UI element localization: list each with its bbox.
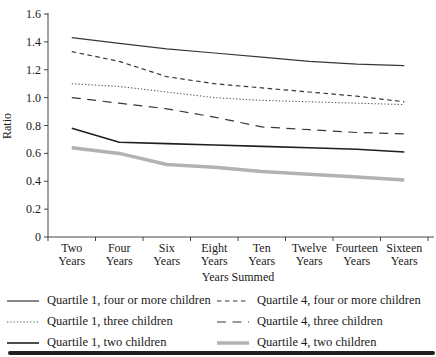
x-category-label: TenYears (248, 241, 275, 268)
x-category-label: SixYears (153, 241, 180, 268)
legend-line-sample-solid-thin (6, 296, 40, 306)
y-tick-label: 0.4 (26, 174, 41, 188)
axes: 00.20.40.60.81.01.21.41.6TwoYearsFourYea… (26, 7, 434, 268)
y-tick-label: 1.6 (26, 7, 41, 21)
series-lines (72, 38, 405, 180)
chart-figure: 00.20.40.60.81.01.21.41.6TwoYearsFourYea… (0, 0, 436, 357)
legend-item: Quartile 1, three children (6, 311, 216, 332)
legend-item: Quartile 4, three children (216, 311, 436, 332)
axis-lines (48, 13, 434, 237)
legend-line-sample-solid (6, 338, 40, 348)
legend-column-quartile4: Quartile 4, four or more childrenQuartil… (216, 290, 436, 353)
legend-item: Quartile 1, four or more children (6, 290, 216, 311)
legend-item: Quartile 4, two children (216, 332, 436, 353)
legend-label: Quartile 4, two children (257, 335, 376, 350)
x-category-label: TwelveYears (292, 241, 327, 268)
y-tick-label: 0.8 (26, 119, 41, 133)
series-line-long-dash (72, 98, 405, 134)
y-tick-label: 1.4 (26, 35, 41, 49)
series-line-solid-thin (72, 38, 405, 66)
legend-label: Quartile 1, three children (47, 314, 173, 329)
chart-legend: Quartile 1, four or more childrenQuartil… (0, 290, 436, 353)
y-tick-label: 0.6 (26, 146, 41, 160)
x-category-label: EightYears (201, 241, 228, 268)
y-tick-label: 1.0 (26, 91, 41, 105)
x-category-label: TwoYears (58, 241, 85, 268)
x-category-label: SixteenYears (386, 241, 422, 268)
y-tick-label: 0.2 (26, 202, 41, 216)
legend-line-sample-dashed (216, 296, 250, 306)
y-tick-label: 1.2 (26, 63, 41, 77)
series-line-dotted (72, 84, 405, 105)
y-tick-label: 0 (35, 230, 41, 244)
legend-label: Quartile 1, four or more children (47, 293, 211, 308)
y-axis-title: Ratio (0, 113, 14, 139)
x-axis-title: Years Summed (202, 270, 274, 284)
legend-line-sample-long-dash (216, 317, 250, 327)
legend-column-quartile1: Quartile 1, four or more childrenQuartil… (0, 290, 216, 353)
line-chart: 00.20.40.60.81.01.21.41.6TwoYearsFourYea… (0, 0, 436, 290)
legend-item: Quartile 1, two children (6, 332, 216, 353)
series-line-dashed (72, 52, 405, 102)
legend-line-sample-solid-thick-gray (216, 338, 250, 348)
legend-item: Quartile 4, four or more children (216, 290, 436, 311)
legend-label: Quartile 4, three children (257, 314, 383, 329)
series-line-solid-thick-gray (72, 148, 405, 180)
legend-line-sample-dotted (6, 317, 40, 327)
x-category-label: FourYears (106, 241, 133, 268)
x-category-label: FourteenYears (335, 241, 378, 268)
bottom-rule (8, 351, 435, 355)
legend-label: Quartile 1, two children (47, 335, 166, 350)
legend-label: Quartile 4, four or more children (257, 293, 421, 308)
